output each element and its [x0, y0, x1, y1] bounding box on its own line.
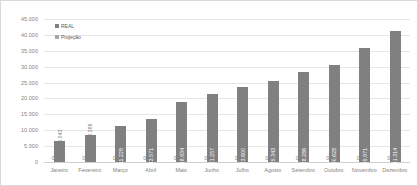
bar-real[interactable]: 35.971 — [359, 48, 370, 162]
y-axis-tick-label: 15.000 — [21, 111, 38, 117]
bar-group: 06.543 — [44, 19, 75, 162]
bar-real[interactable]: 13.571 — [146, 119, 157, 162]
bar-real[interactable]: 28.286 — [298, 72, 309, 162]
x-axis-tick-label: Outubro — [319, 164, 350, 184]
x-axis-tick-label: Abril — [136, 164, 167, 184]
x-axis-tick-label: Fevereiro — [75, 164, 106, 184]
legend-label: Projeção — [61, 34, 81, 40]
y-axis-tick-label: 20.000 — [21, 95, 38, 101]
chart-legend: REALProjeção — [55, 23, 81, 40]
bar-value-label-real: 30.628 — [331, 148, 337, 165]
bar-value-label-real: 35.971 — [362, 148, 368, 165]
bar-group: 028.286 — [288, 19, 319, 162]
bar-group: 035.971 — [349, 19, 380, 162]
x-axis-tick-label: Junho — [197, 164, 228, 184]
bar-group: 08.386 — [75, 19, 106, 162]
bar-real-wrap: 21.257 — [207, 19, 218, 162]
bar-real[interactable]: 41.314 — [390, 31, 401, 162]
bar-value-label-real: 28.286 — [301, 148, 307, 165]
bar-group: 023.600 — [227, 19, 258, 162]
bar-value-label-real: 11.229 — [118, 148, 124, 164]
bar-value-label-real: 18.934 — [179, 148, 185, 165]
x-axis-tick-label: Janeiro — [44, 164, 75, 184]
bar-real[interactable]: 23.600 — [237, 87, 248, 162]
plot-area: 06.54308.386011.229013.571018.934021.257… — [44, 19, 410, 162]
y-axis-tick-label: 45.000 — [21, 16, 38, 22]
y-axis-tick-label: 0 — [35, 159, 38, 165]
bar-value-label-real: 13.571 — [148, 148, 154, 165]
y-axis-tick-label: 30.000 — [21, 64, 38, 70]
legend-item-real[interactable]: REAL — [55, 23, 81, 29]
bar-real-wrap: 28.286 — [298, 19, 309, 162]
bar-group: 018.934 — [166, 19, 197, 162]
legend-swatch-icon — [55, 24, 59, 28]
bar-value-label-real: 25.343 — [270, 148, 276, 165]
bar-real-wrap: 8.386 — [85, 19, 96, 162]
bar-real-wrap: 6.543 — [54, 19, 65, 162]
bar-real[interactable]: 6.543 — [54, 141, 65, 162]
x-axis-tick-label: Novembro — [349, 164, 380, 184]
legend-swatch-icon — [55, 35, 59, 39]
y-axis-tick-label: 25.000 — [21, 80, 38, 86]
bar-group: 025.343 — [258, 19, 289, 162]
bar-group: 021.257 — [197, 19, 228, 162]
bar-value-label-real: 21.257 — [209, 148, 215, 165]
x-axis-tick-label: Dezembro — [380, 164, 411, 184]
bar-real[interactable]: 30.628 — [329, 65, 340, 162]
y-axis-tick-label: 35.000 — [21, 48, 38, 54]
bar-real-wrap: 35.971 — [359, 19, 370, 162]
bar-real-wrap: 23.600 — [237, 19, 248, 162]
y-axis-tick-label: 5.000 — [24, 143, 38, 149]
bar-real[interactable]: 18.934 — [176, 102, 187, 162]
bar-real-wrap: 11.229 — [115, 19, 126, 162]
bar-value-label-real: 41.314 — [392, 148, 398, 165]
bar-real[interactable]: 8.386 — [85, 135, 96, 162]
x-axis-tick-label: Maio — [166, 164, 197, 184]
x-axis-tick-label: Setembro — [288, 164, 319, 184]
chart-container: 05.00010.00015.00020.00025.00030.00035.0… — [0, 0, 418, 186]
bar-value-label-real: 6.543 — [57, 129, 63, 143]
legend-label: REAL — [61, 23, 74, 29]
x-axis-tick-label: Agosto — [258, 164, 289, 184]
bar-real-wrap: 25.343 — [268, 19, 279, 162]
bar-group: 030.628 — [319, 19, 350, 162]
bar-real[interactable]: 21.257 — [207, 94, 218, 162]
bar-value-label-real: 23.600 — [240, 148, 246, 165]
bar-group: 013.571 — [136, 19, 167, 162]
bar-real[interactable]: 25.343 — [268, 81, 279, 162]
bar-group: 011.229 — [105, 19, 136, 162]
bar-group: 041.314 — [380, 19, 411, 162]
bar-real-wrap: 18.934 — [176, 19, 187, 162]
bar-value-label-real: 8.386 — [87, 124, 93, 138]
y-axis-tick-label: 40.000 — [21, 32, 38, 38]
y-axis: 05.00010.00015.00020.00025.00030.00035.0… — [1, 19, 42, 162]
legend-item-projecao[interactable]: Projeção — [55, 34, 81, 40]
x-axis-tick-label: Julho — [227, 164, 258, 184]
y-axis-tick-label: 10.000 — [21, 127, 38, 133]
bar-real-wrap: 41.314 — [390, 19, 401, 162]
axis-baseline — [44, 162, 410, 163]
bar-series-layer: 06.54308.386011.229013.571018.934021.257… — [44, 19, 410, 162]
x-axis-tick-label: Março — [105, 164, 136, 184]
bar-real-wrap: 13.571 — [146, 19, 157, 162]
bar-real-wrap: 30.628 — [329, 19, 340, 162]
bar-real[interactable]: 11.229 — [115, 126, 126, 162]
x-axis: JaneiroFevereiroMarçoAbrilMaioJunhoJulho… — [44, 164, 410, 184]
